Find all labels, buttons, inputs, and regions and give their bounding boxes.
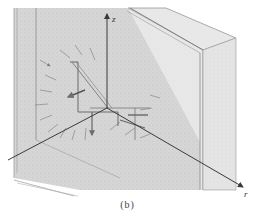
r-axis-label: r <box>244 189 248 199</box>
field-diagram: z r <box>0 0 255 219</box>
figure-caption: (b) <box>0 199 255 210</box>
z-axis-label: z <box>111 14 116 24</box>
